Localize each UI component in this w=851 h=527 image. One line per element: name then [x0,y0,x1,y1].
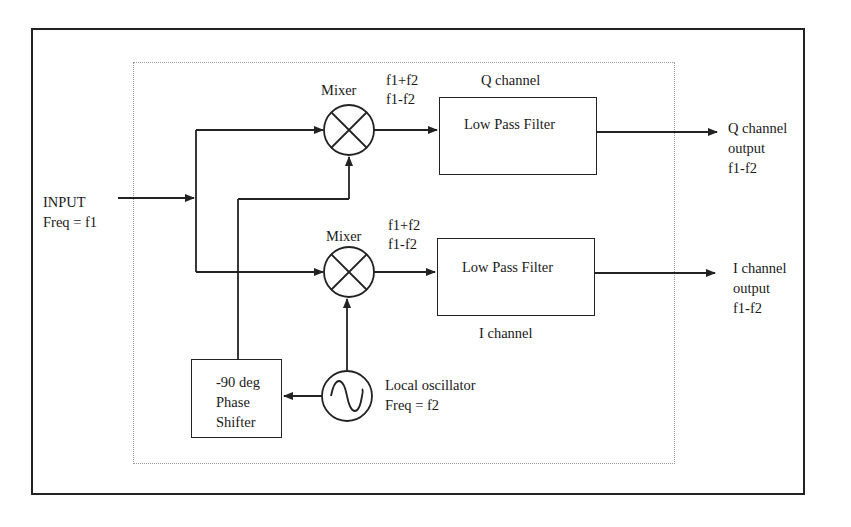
output-i-line3: f1-f2 [733,298,762,318]
lpf-q-block: Low Pass Filter [439,97,597,175]
mixer-q-label: Mixer [321,80,356,100]
mixer-q-out-line1: f1+f2 [386,70,418,90]
output-i-line2: output [733,278,770,298]
output-q-line3: f1-f2 [728,158,757,178]
mixer-i-out-line1: f1+f2 [388,215,420,235]
oscillator-label-line2: Freq = f2 [385,395,439,415]
phase-shifter-line3: Shifter [216,412,255,432]
input-label-line2: Freq = f1 [43,212,97,232]
lpf-i-label: Low Pass Filter [462,257,553,277]
lpf-i-block: Low Pass Filter [437,238,595,316]
i-channel-label: I channel [479,323,533,343]
phase-shifter-block: -90 deg Phase Shifter [191,359,282,438]
mixer-i-label: Mixer [326,226,361,246]
mixer-i-out-line2: f1-f2 [388,234,417,254]
output-q-line2: output [728,138,765,158]
oscillator-label-line1: Local oscillator [385,375,476,395]
mixer-q-out-line2: f1-f2 [386,89,415,109]
phase-shifter-line1: -90 deg [216,372,260,392]
sine-wave-icon [331,381,363,411]
output-q-line1: Q channel [728,118,787,138]
input-label-line1: INPUT [43,192,86,212]
output-i-line1: I channel [733,258,787,278]
diagram-wiring [0,0,851,527]
lpf-q-label: Low Pass Filter [464,114,555,134]
phase-shifter-line2: Phase [216,392,250,412]
q-channel-label: Q channel [481,70,540,90]
